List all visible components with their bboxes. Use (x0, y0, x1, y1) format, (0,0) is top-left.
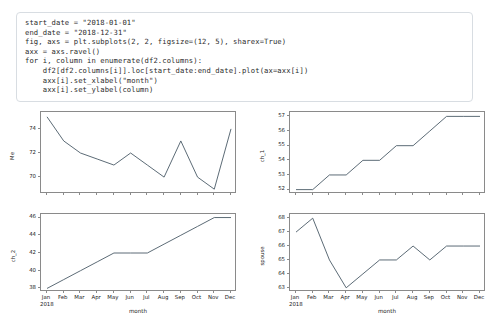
x-axis-tick-mark (197, 291, 198, 293)
y-axis-tick-label: 42 (14, 249, 36, 255)
x-axis-tick-mark (312, 291, 313, 293)
x-axis-label: month (40, 308, 236, 313)
x-axis-tick-mark (395, 193, 396, 195)
x-axis-year-label: 2018 (40, 301, 54, 307)
x-axis-tick-label: Sep (420, 294, 438, 300)
y-axis-tick-label: 46 (14, 213, 36, 219)
x-axis-tick-mark (446, 291, 447, 293)
series-line-ch2 (41, 214, 237, 292)
x-axis-tick-mark (295, 291, 296, 293)
x-axis-tick-mark (146, 193, 147, 195)
code-line: df2[df2.columns[i]].loc[start_date:end_d… (25, 66, 464, 76)
y-axis-tick-mark (38, 128, 40, 129)
subplot-bottom-left: ch_2 2018 month 3840424446JanFebMarAprMa… (0, 209, 248, 313)
x-axis-tick-mark (63, 291, 64, 293)
x-axis-tick-mark (462, 291, 463, 293)
code-line: fig, axs = plt.subplots(2, 2, figsize=(1… (25, 37, 464, 47)
x-axis-tick-mark (46, 193, 47, 195)
x-axis-tick-mark (130, 193, 131, 195)
x-axis-tick-mark (79, 193, 80, 195)
y-axis-tick-mark (287, 130, 289, 131)
y-axis-tick-label: 67 (263, 228, 285, 234)
x-axis-label: month (289, 308, 485, 313)
y-axis-tick-label: 63 (263, 284, 285, 290)
x-axis-tick-label: Feb (303, 294, 321, 300)
plot-area (40, 111, 236, 193)
subplot-bottom-right: spouse 2018 month 636465666768JanFebMarA… (249, 209, 497, 313)
y-axis-tick-label: 55 (263, 141, 285, 147)
x-axis-tick-mark (362, 291, 363, 293)
y-axis-tick-mark (38, 217, 40, 218)
page-root: start_date = "2018-01-01" end_date = "20… (0, 0, 497, 313)
y-axis-tick-mark (287, 259, 289, 260)
y-axis-tick-mark (287, 287, 289, 288)
y-axis-tick-mark (38, 287, 40, 288)
x-axis-tick-mark (180, 193, 181, 195)
y-axis-tick-mark (38, 234, 40, 235)
x-axis-year-label: 2018 (289, 301, 303, 307)
x-axis-tick-mark (295, 193, 296, 195)
code-line: axx[i].set_ylabel(column) (25, 85, 464, 95)
y-axis-tick-mark (287, 245, 289, 246)
x-axis-tick-label: Oct (437, 294, 455, 300)
x-axis-tick-label: Jan (286, 294, 304, 300)
x-axis-tick-label: Jun (370, 294, 388, 300)
x-axis-tick-mark (113, 193, 114, 195)
y-axis-tick-mark (287, 159, 289, 160)
y-axis-tick-label: 65 (263, 256, 285, 262)
y-axis-tick-mark (287, 217, 289, 218)
x-axis-tick-mark (213, 291, 214, 293)
plot-area (289, 213, 485, 291)
x-axis-tick-mark (79, 291, 80, 293)
code-line: for i, column in enumerate(df2.columns): (25, 56, 464, 66)
y-axis-tick-mark (287, 145, 289, 146)
subplot-top-left: Me 707274 (0, 105, 248, 209)
matplotlib-figure: Me 707274 ch_1 525354555657 ch_2 2018 mo… (0, 105, 497, 313)
y-axis-tick-label: 70 (14, 173, 36, 179)
x-axis-tick-label: Apr (87, 294, 105, 300)
x-axis-tick-mark (412, 193, 413, 195)
x-axis-tick-mark (446, 193, 447, 195)
x-axis-tick-mark (180, 291, 181, 293)
x-axis-tick-mark (362, 193, 363, 195)
code-line: axx = axs.ravel() (25, 47, 464, 57)
x-axis-tick-mark (163, 193, 164, 195)
x-axis-tick-mark (429, 291, 430, 293)
x-axis-tick-mark (46, 291, 47, 293)
x-axis-tick-label: Aug (403, 294, 421, 300)
plot-area (289, 111, 485, 193)
x-axis-tick-label: Dec (470, 294, 488, 300)
x-axis-tick-label: Feb (54, 294, 72, 300)
x-axis-tick-label: Mar (319, 294, 337, 300)
x-axis-tick-label: Nov (204, 294, 222, 300)
y-axis-tick-label: 38 (14, 284, 36, 290)
y-axis-tick-label: 68 (263, 214, 285, 220)
x-axis-tick-mark (230, 291, 231, 293)
y-axis-tick-label: 54 (263, 156, 285, 162)
y-axis-tick-mark (38, 252, 40, 253)
y-axis-tick-mark (38, 176, 40, 177)
y-axis-label: Me (9, 141, 15, 171)
y-axis-tick-label: 74 (14, 125, 36, 131)
x-axis-tick-mark (197, 193, 198, 195)
y-axis-tick-mark (287, 189, 289, 190)
x-axis-tick-mark (429, 193, 430, 195)
x-axis-tick-mark (96, 193, 97, 195)
x-axis-tick-label: May (104, 294, 122, 300)
series-line-spouse (290, 214, 486, 292)
y-axis-tick-label: 44 (14, 231, 36, 237)
y-axis-tick-label: 57 (263, 112, 285, 118)
code-block: start_date = "2018-01-01" end_date = "20… (16, 12, 473, 102)
y-axis-tick-mark (287, 273, 289, 274)
x-axis-tick-label: Jan (37, 294, 55, 300)
y-axis-tick-mark (287, 231, 289, 232)
y-axis-tick-label: 56 (263, 127, 285, 133)
y-axis-tick-mark (38, 270, 40, 271)
x-axis-tick-mark (130, 291, 131, 293)
x-axis-tick-mark (395, 291, 396, 293)
x-axis-tick-mark (230, 193, 231, 195)
x-axis-tick-mark (146, 291, 147, 293)
plot-area (40, 213, 236, 291)
x-axis-tick-mark (312, 193, 313, 195)
x-axis-tick-mark (328, 193, 329, 195)
